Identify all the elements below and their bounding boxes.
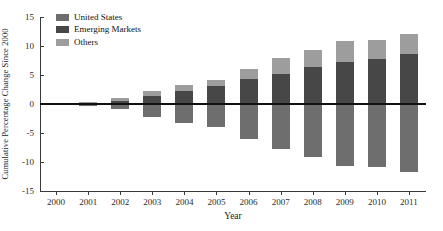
bar-segment (240, 69, 258, 79)
legend-item[interactable]: Emerging Markets (56, 25, 141, 35)
legend-swatch (56, 39, 69, 46)
x-tick-label: 2005 (200, 198, 232, 207)
y-tick-label: 5 (4, 71, 34, 80)
y-tick-mark (40, 191, 44, 192)
bar-segment (175, 85, 193, 91)
x-tick-mark (249, 191, 250, 195)
bar-segment (304, 50, 322, 67)
bar-segment (207, 80, 225, 86)
x-tick-label: 2009 (329, 198, 361, 207)
bar-segment (111, 98, 129, 100)
x-tick-mark (56, 191, 57, 195)
bar-segment (272, 58, 290, 74)
x-tick-label: 2006 (233, 198, 265, 207)
legend-label: Others (74, 38, 98, 47)
legend-label: Emerging Markets (74, 25, 141, 34)
x-tick-mark (409, 191, 410, 195)
y-tick-label: -15 (4, 187, 34, 196)
x-tick-label: 2007 (265, 198, 297, 207)
legend-swatch (56, 26, 69, 33)
bar-segment (304, 67, 322, 104)
legend-item[interactable]: United States (56, 12, 141, 22)
bar-segment (240, 104, 258, 139)
legend-swatch (56, 14, 69, 21)
bar-segment (272, 104, 290, 149)
x-tick-mark (281, 191, 282, 195)
x-tick-mark (88, 191, 89, 195)
x-axis-line (40, 191, 426, 192)
x-tick-label: 2008 (297, 198, 329, 207)
y-tick-label: -10 (4, 158, 34, 167)
bar-segment (175, 104, 193, 123)
x-tick-mark (313, 191, 314, 195)
bar-segment (400, 34, 418, 54)
chart-legend: United StatesEmerging MarketsOthers (56, 12, 141, 50)
x-tick-mark (120, 191, 121, 195)
bar-segment (368, 104, 386, 167)
x-tick-label: 2004 (168, 198, 200, 207)
y-tick-label: -5 (4, 129, 34, 138)
chart-container: Cumulative Percentage Change Since 2000 … (0, 0, 443, 231)
x-tick-mark (152, 191, 153, 195)
y-tick-label: 15 (4, 13, 34, 22)
bar-segment (400, 104, 418, 172)
x-tick-mark (345, 191, 346, 195)
bar-segment (272, 74, 290, 104)
zero-reference-line (40, 103, 426, 105)
x-tick-label: 2011 (393, 198, 425, 207)
x-tick-mark (216, 191, 217, 195)
legend-item[interactable]: Others (56, 37, 141, 47)
bar-segment (143, 91, 161, 97)
bar-segment (400, 54, 418, 104)
y-tick-label: 10 (4, 42, 34, 51)
bar-segment (368, 40, 386, 60)
y-tick-label: 0 (4, 100, 34, 109)
x-tick-label: 2010 (361, 198, 393, 207)
x-tick-label: 2001 (72, 198, 104, 207)
x-tick-label: 2003 (136, 198, 168, 207)
bar-segment (336, 104, 354, 166)
bar-segment (336, 62, 354, 104)
x-tick-label: 2000 (40, 198, 72, 207)
bar-segment (207, 86, 225, 104)
legend-label: United States (74, 13, 122, 22)
bar-segment (304, 104, 322, 157)
x-tick-mark (184, 191, 185, 195)
bar-segment (368, 59, 386, 104)
bar-segment (143, 104, 161, 117)
bar-segment (336, 41, 354, 62)
bar-segment (207, 104, 225, 127)
x-tick-label: 2002 (104, 198, 136, 207)
x-tick-mark (377, 191, 378, 195)
bar-segment (240, 79, 258, 104)
x-axis-title: Year (40, 211, 426, 221)
